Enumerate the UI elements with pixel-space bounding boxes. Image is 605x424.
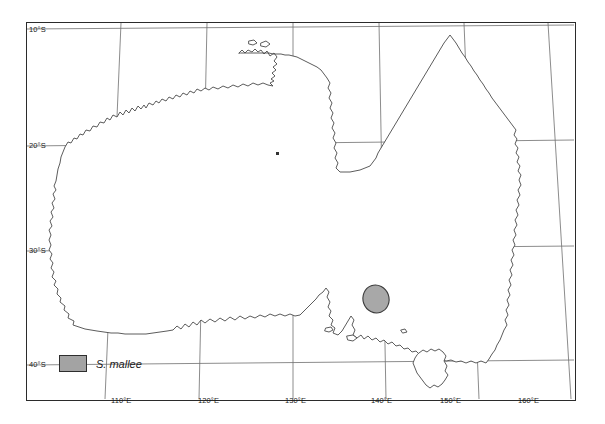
tasmania-coastline xyxy=(413,349,448,388)
longitude-label-160e: 160°E xyxy=(518,396,539,405)
longitude-label-150e: 150°E xyxy=(440,396,461,405)
interior-locality-dot xyxy=(276,152,279,155)
distribution-map-figure: 10°S 20°S 30°S 40°S 110°E 120°E 130°E 14… xyxy=(0,0,605,424)
longitude-label-140e: 140°E xyxy=(371,396,392,405)
legend-label-s-mallee: S. mallee xyxy=(96,358,142,370)
latitude-label-20s: 20°S xyxy=(29,141,46,150)
longitude-label-130e: 130°E xyxy=(285,396,306,405)
legend-swatch-s-mallee xyxy=(59,355,87,372)
latitude-label-10s: 10°S xyxy=(29,25,46,34)
map-canvas xyxy=(27,23,574,399)
legend: S. mallee xyxy=(59,355,142,372)
locality-marker-group xyxy=(276,152,279,155)
australia-mainland-coastline xyxy=(49,35,521,363)
latitude-label-30s: 30°S xyxy=(29,246,46,255)
map-frame xyxy=(26,22,576,401)
longitude-label-120e: 120°E xyxy=(198,396,219,405)
longitude-label-110e: 110°E xyxy=(111,396,131,405)
latitude-label-40s: 40°S xyxy=(29,360,46,369)
